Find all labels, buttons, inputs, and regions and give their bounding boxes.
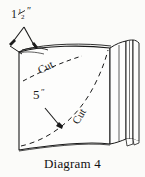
measure-tick-left — [10, 46, 22, 54]
five-inch-value: 5 — [33, 87, 40, 102]
measure-label-top: 1 1 2 ″ — [11, 5, 31, 21]
fold-bottom-tip-1 — [126, 139, 133, 146]
arrow-head-left — [9, 39, 16, 46]
measure-fraction-denominator: 2 — [21, 13, 25, 21]
diagram-figure: Cut Cut 1 1 2 ″ 5 ″ — [0, 0, 145, 177]
measure-unit-inches: ″ — [27, 5, 31, 16]
fabric-fold-layers — [110, 40, 139, 146]
measurement-arrow-top — [12, 27, 35, 47]
diagram-caption: Diagram 4 — [0, 156, 145, 172]
fold-layer-1 — [110, 41, 126, 144]
measure-whole-number: 1 — [11, 7, 17, 21]
folded-fabric-illustration: Cut Cut 1 1 2 ″ 5 ″ — [0, 0, 145, 177]
fold-layer-3 — [133, 40, 139, 141]
five-inch-unit: ″ — [41, 87, 45, 97]
